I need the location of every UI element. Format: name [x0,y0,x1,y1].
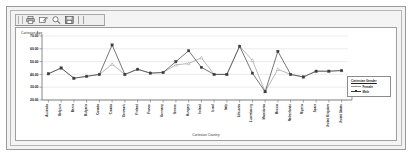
x-axis-category-label: Hungary [186,104,190,117]
toolbar-separator [78,16,79,24]
gridlines [42,36,348,100]
data-point-marker[interactable] [289,73,291,75]
square-marker-icon [351,90,361,93]
data-point-marker[interactable] [200,56,203,59]
x-axis-category-label: Croatia [109,104,113,115]
x-axis-category-label: Israel [211,104,215,112]
data-point-marker[interactable] [136,68,138,70]
data-point-marker[interactable] [175,60,177,62]
data-point-marker[interactable] [200,66,202,68]
x-axis-category-label: Netherlands [288,104,292,122]
chart-window-inner: Cartesian Age 20.0030.0040.0050.0060.007… [10,10,402,146]
y-axis-tick-label: 20.00 [30,98,39,102]
y-axis-tick-label: 40.00 [30,73,39,77]
y-axis-tick-label: 60.00 [30,47,39,51]
x-axis-category-label: Greece [173,104,177,115]
x-axis-category-label: Lithuania [237,104,241,118]
x-axis-category-label: Denmark [122,104,126,117]
data-point-marker[interactable] [124,73,126,75]
x-axis-category-label: United States [339,104,343,124]
data-point-marker[interactable] [302,76,304,78]
x-axis-category-label: Spain [313,104,317,112]
data-point-marker[interactable] [98,73,100,75]
x-axis-labels: AustraliaBelgiumBeninBulgariaCanadaCroat… [45,104,342,128]
y-axis-ticks: 20.0030.0040.0050.0060.0070.00 [30,34,39,102]
data-point-marker[interactable] [226,73,228,75]
legend-item-label: Male [363,90,370,94]
x-axis-category-label: Luxembourg [249,104,253,122]
x-axis-category-label: Benin [71,104,75,113]
data-point-marker[interactable] [60,67,62,69]
legend-item-label: Female [363,85,373,89]
series-male[interactable] [47,44,343,93]
series-female[interactable] [47,45,343,93]
data-point-marker[interactable] [162,71,164,73]
data-point-marker[interactable] [111,63,114,66]
data-point-marker[interactable] [276,68,279,71]
series-line [48,45,341,92]
data-point-marker[interactable] [277,50,279,52]
x-axis-title: Cartesian Country [16,133,396,137]
data-point-marker[interactable] [149,72,151,74]
x-axis-category-label: Mexico [275,104,279,114]
data-point-marker[interactable] [73,77,75,79]
x-axis-category-label: Belgium [58,104,62,116]
toolbar [15,14,105,26]
y-axis-tick-label: 30.00 [30,85,39,89]
toolbar-drag-handle[interactable] [18,16,23,24]
x-axis-category-label: Canada [96,104,100,115]
data-point-marker[interactable] [85,75,87,77]
x-axis-ticks [48,100,341,103]
data-point-marker[interactable] [187,50,189,52]
legend-title: Cartesian Gender [351,79,387,83]
triangle-marker-icon [351,85,361,88]
y-axis-tick-label: 50.00 [30,60,39,64]
x-axis-category-label: Ireland [198,104,202,114]
x-axis-category-label: Macedonia [262,104,266,120]
x-axis-category-label: Australia [45,104,49,117]
data-point-marker[interactable] [213,73,215,75]
chart-plot-svg: 20.0030.0040.0050.0060.0070.00 Australia… [16,28,400,148]
legend-items: FemaleMale [351,85,387,94]
x-axis-category-label: France [147,104,151,114]
save-icon[interactable] [64,15,75,25]
data-point-marker[interactable] [328,70,330,72]
data-point-marker[interactable] [340,69,342,71]
x-axis-category-label: Finland [135,104,139,115]
data-point-marker[interactable] [251,72,253,74]
chart-window: Cartesian Age 20.0030.0040.0050.0060.007… [6,6,406,150]
chart-panel[interactable]: Cartesian Age 20.0030.0040.0050.0060.007… [15,27,397,141]
x-axis-category-label: Bulgaria [84,104,88,116]
data-point-marker[interactable] [238,45,240,47]
axis-lines [40,34,353,100]
data-point-marker[interactable] [315,70,317,72]
legend[interactable]: Cartesian Gender FemaleMale [347,76,391,97]
data-point-marker[interactable] [111,44,113,46]
edit-icon[interactable] [38,15,49,25]
plot-area[interactable]: 20.0030.0040.0050.0060.0070.00 Australia… [16,28,396,140]
data-series [47,44,343,93]
x-axis-category-label: Germany [160,104,164,117]
y-axis-tick-label: 70.00 [30,34,39,38]
toolbar-separator [83,16,84,24]
zoom-icon[interactable] [51,15,62,25]
x-axis-category-label: United Kingdom [326,104,330,127]
print-icon[interactable] [25,15,36,25]
legend-item-male[interactable]: Male [351,90,387,94]
data-point-marker[interactable] [264,90,266,92]
x-axis-category-label: Nigeria [300,104,304,115]
series-line [48,46,341,91]
data-point-marker[interactable] [47,73,49,75]
x-axis-category-label: Italy [224,104,228,110]
legend-item-female[interactable]: Female [351,85,387,89]
